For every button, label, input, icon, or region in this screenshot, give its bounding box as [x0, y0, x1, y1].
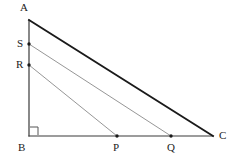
segment-AC-hypotenuse: [29, 20, 213, 136]
segment-RP-parallel: [29, 65, 117, 136]
vertex-label-B: B: [18, 142, 25, 153]
vertex-label-A: A: [20, 2, 28, 13]
geometry-figure: A S R B P Q C: [0, 0, 235, 159]
dot-Q: [169, 134, 172, 137]
vertex-label-R: R: [16, 59, 23, 70]
vertex-label-P: P: [113, 142, 119, 153]
vertex-label-Q: Q: [167, 142, 175, 153]
segments-group: [29, 20, 213, 136]
geometry-canvas: [0, 0, 235, 159]
right-angle-marker-at-B: [30, 127, 38, 135]
vertex-label-C: C: [219, 130, 226, 141]
dot-R: [27, 63, 30, 66]
dot-S: [27, 42, 30, 45]
vertex-label-S: S: [17, 38, 23, 49]
dot-P: [115, 134, 118, 137]
right-angle-polyline: [30, 127, 38, 135]
